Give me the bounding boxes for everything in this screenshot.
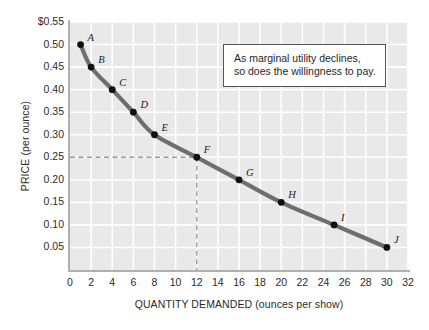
- point-label-h: H: [288, 189, 296, 200]
- annotation-marginal-utility-note: As marginal utility declines, so does th…: [223, 44, 386, 87]
- demand-curve-chart: $0.550.500.450.400.350.300.250.200.150.1…: [0, 0, 429, 330]
- y-axis-title: PRICE (per ounce): [19, 71, 31, 221]
- annotation-line-2: so does the willingness to pay.: [234, 65, 376, 78]
- point-label-e: E: [162, 122, 168, 133]
- annotation-line-1: As marginal utility declines,: [234, 52, 376, 65]
- point-label-a: A: [88, 32, 94, 43]
- point-label-g: G: [246, 167, 254, 178]
- y-tick-label: 0.45: [0, 61, 64, 72]
- point-label-i: I: [341, 212, 345, 223]
- y-tick-label: 0.50: [0, 39, 64, 50]
- point-label-d: D: [140, 99, 148, 110]
- y-tick-label: 0.10: [0, 219, 64, 230]
- point-label-j: J: [394, 234, 399, 245]
- y-tick-label: 0.40: [0, 84, 64, 95]
- point-label-f: F: [204, 144, 210, 155]
- y-tick-label: 0.05: [0, 241, 64, 252]
- y-tick-label: 0.35: [0, 106, 64, 117]
- y-tick-label: 0.30: [0, 129, 64, 140]
- point-label-c: C: [119, 77, 126, 88]
- y-tick-label: 0.25: [0, 151, 64, 162]
- point-label-b: B: [98, 54, 104, 65]
- x-tick-label: 32: [393, 276, 423, 288]
- y-tick-label: 0.15: [0, 196, 64, 207]
- y-tick-label: 0.20: [0, 174, 64, 185]
- x-axis-title: QUANTITY DEMANDED (ounces per show): [70, 298, 408, 310]
- y-tick-label: $0.55: [0, 16, 64, 27]
